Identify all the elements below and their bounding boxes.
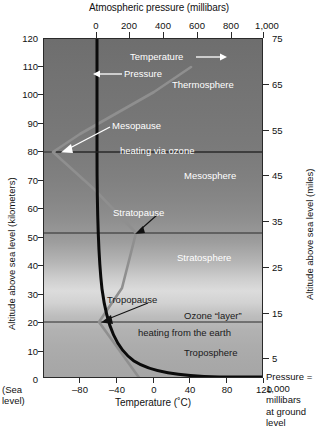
right-tickmark-35 xyxy=(263,221,269,222)
boundary-label-mesopause: Mesopause xyxy=(112,120,161,131)
right-tick-label-55: 55 xyxy=(272,125,298,136)
left-tick-label-90: 90 xyxy=(8,118,38,129)
right-tick-label-45: 45 xyxy=(272,170,298,181)
boundary-label-stratopause: Stratopause xyxy=(113,207,164,218)
ground-pressure-note: Pressure = 1,000 millibars at ground lev… xyxy=(266,371,318,429)
right-tick-label-75: 75 xyxy=(272,33,298,44)
bottom-tickmark-120 xyxy=(263,378,264,383)
left-tick-label-30: 30 xyxy=(8,289,38,300)
heating-via-ozone-label: heating via ozone xyxy=(120,145,194,156)
right-tickmark-25 xyxy=(263,267,269,268)
ground-pressure-line-1: Pressure = xyxy=(266,371,318,383)
left-tick-label-40: 40 xyxy=(8,260,38,271)
right-tick-label-65: 65 xyxy=(272,79,298,90)
right-tick-label-25: 25 xyxy=(272,262,298,273)
temperature-callout-arrow xyxy=(196,54,227,61)
top-tick-label-800: 800 xyxy=(218,20,244,31)
layer-label-mesosphere: Mesosphere xyxy=(184,170,236,181)
layer-label-thermosphere: Thermosphere xyxy=(172,79,234,90)
right-tick-label-35: 35 xyxy=(272,216,298,227)
bottom-tickmark--40 xyxy=(116,378,117,383)
top-axis-title: Atmospheric pressure (millibars) xyxy=(0,2,318,13)
left-axis-title: Altitude above sea level (kilometers) xyxy=(6,177,17,330)
left-tick-label-10: 10 xyxy=(8,346,38,357)
bottom-tick-label-80: 80 xyxy=(213,384,241,395)
left-tick-label-80: 80 xyxy=(8,146,38,157)
pressure-series-label: Pressure xyxy=(124,68,162,79)
left-tick-label-20: 20 xyxy=(8,317,38,328)
left-tick-label-100: 100 xyxy=(8,89,38,100)
temperature-series-label: Temperature xyxy=(130,51,183,62)
sea-level-line-1: (Sea xyxy=(2,384,25,395)
tropopause-callout-arrow xyxy=(101,303,148,324)
bottom-tick-label-40: 40 xyxy=(176,384,204,395)
bottom-tick-label--40: –40 xyxy=(103,384,131,395)
ground-pressure-line-4: at ground xyxy=(266,406,318,418)
bottom-tickmark-0 xyxy=(153,378,154,383)
left-tick-label-50: 50 xyxy=(8,232,38,243)
atmosphere-profile-chart: Atmospheric pressure (millibars) 0 200 4… xyxy=(0,0,318,435)
sea-level-note: (Sea level) xyxy=(2,384,25,406)
right-tickmark-55 xyxy=(263,130,269,131)
top-tick-label-200: 200 xyxy=(116,20,142,31)
ground-pressure-line-5: level xyxy=(266,417,318,429)
sea-level-line-2: level) xyxy=(2,395,25,406)
right-tickmark-45 xyxy=(263,175,269,176)
right-tickmark-65 xyxy=(263,84,269,85)
layer-label-troposphere: Troposphere xyxy=(184,347,238,358)
right-tickmark-5 xyxy=(263,358,269,359)
top-tick-label-600: 600 xyxy=(184,20,210,31)
right-axis-title: Altitude above sea level (miles) xyxy=(304,169,315,300)
plot-area: Temperature Pressure Thermosphere Mesopa… xyxy=(43,38,263,378)
top-tickmark-1000 xyxy=(263,32,264,38)
ground-pressure-line-2: 1,000 xyxy=(266,383,318,395)
bottom-tickmark-80 xyxy=(226,378,227,383)
top-tick-label-400: 400 xyxy=(150,20,176,31)
heating-from-earth-label: heating from the earth xyxy=(138,327,231,338)
top-tick-label-0: 0 xyxy=(83,20,109,31)
right-tick-label-15: 15 xyxy=(272,308,298,319)
right-tickmark-15 xyxy=(263,313,269,314)
right-tick-label-5: 5 xyxy=(272,353,298,364)
left-tick-label-60: 60 xyxy=(8,203,38,214)
boundary-label-tropopause: Tropopause xyxy=(107,294,157,305)
top-tick-label-1000: 1,000 xyxy=(250,20,284,31)
bottom-tickmark--80 xyxy=(79,378,80,383)
bottom-tick-label-0: 0 xyxy=(140,384,168,395)
bottom-axis-title: Temperature (˚C) xyxy=(43,397,263,408)
ground-pressure-line-3: millibars xyxy=(266,394,318,406)
left-tick-label-120: 120 xyxy=(8,33,38,44)
bottom-tickmark-40 xyxy=(189,378,190,383)
ozone-layer-label: Ozone “layer” xyxy=(184,310,242,321)
left-tick-label-70: 70 xyxy=(8,175,38,186)
bottom-tick-label--80: –80 xyxy=(66,384,94,395)
layer-label-stratosphere: Stratosphere xyxy=(177,252,231,263)
left-tick-label-110: 110 xyxy=(8,61,38,72)
